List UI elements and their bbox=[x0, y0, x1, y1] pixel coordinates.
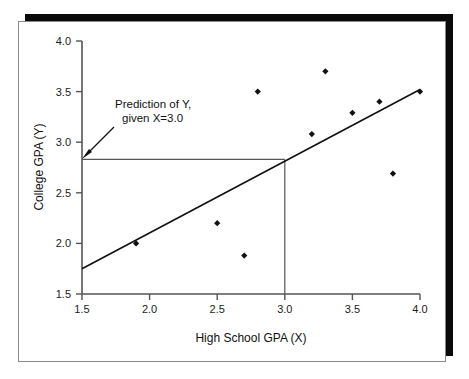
annotation-line-1: Prediction of Y, bbox=[115, 98, 191, 110]
data-point bbox=[214, 220, 220, 226]
x-tick-label: 3.0 bbox=[277, 303, 292, 315]
chart-frame: 4.0 3.5 3.0 2.5 2.0 1.5 1.5 2.0 2.5 3.0 … bbox=[18, 21, 446, 362]
data-point bbox=[390, 170, 396, 176]
y-tick-label: 3.5 bbox=[56, 86, 71, 98]
scatter-plot: 4.0 3.5 3.0 2.5 2.0 1.5 1.5 2.0 2.5 3.0 … bbox=[19, 22, 447, 363]
x-tick-label: 2.5 bbox=[210, 303, 225, 315]
y-axis-title: College GPA (Y) bbox=[32, 123, 46, 210]
prediction-guide-lines bbox=[82, 159, 285, 294]
data-point-group bbox=[133, 68, 423, 258]
x-axis-tick-labels: 1.5 2.0 2.5 3.0 3.5 4.0 bbox=[74, 303, 427, 315]
figure-root: 4.0 3.5 3.0 2.5 2.0 1.5 1.5 2.0 2.5 3.0 … bbox=[0, 0, 469, 379]
data-point bbox=[241, 252, 247, 258]
x-tick-label: 4.0 bbox=[412, 303, 427, 315]
data-point bbox=[255, 89, 261, 95]
annotation-line-2: given X=3.0 bbox=[122, 112, 183, 124]
data-point bbox=[417, 89, 423, 95]
data-point bbox=[322, 68, 328, 74]
data-point bbox=[309, 131, 315, 137]
y-tick-label: 4.0 bbox=[56, 35, 71, 47]
data-point bbox=[376, 99, 382, 105]
x-tick-label: 3.5 bbox=[345, 303, 360, 315]
y-tick-label: 2.5 bbox=[56, 187, 71, 199]
x-tick-label: 1.5 bbox=[74, 303, 89, 315]
x-tick-label: 2.0 bbox=[142, 303, 157, 315]
y-tick-label: 1.5 bbox=[56, 288, 71, 300]
y-axis-tick-labels: 4.0 3.5 3.0 2.5 2.0 1.5 bbox=[56, 35, 71, 300]
y-tick-label: 2.0 bbox=[56, 237, 71, 249]
y-axis-ticks bbox=[76, 41, 82, 294]
annotation-arrow-icon bbox=[82, 127, 114, 159]
x-axis-ticks bbox=[82, 294, 420, 300]
y-tick-label: 3.0 bbox=[56, 136, 71, 148]
x-axis-title: High School GPA (X) bbox=[195, 331, 306, 345]
data-point bbox=[349, 110, 355, 116]
